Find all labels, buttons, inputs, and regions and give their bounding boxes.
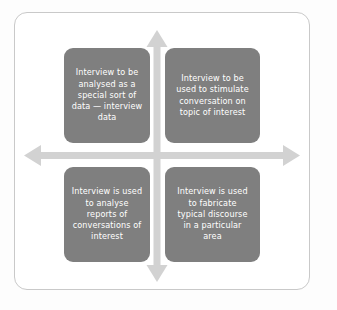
quadrant-diagram: Interview to be analysed as a special so… [0, 0, 337, 310]
quadrant-label-top-left: Interview to be analysed as a special so… [72, 67, 143, 123]
horizontal-axis-arrow-icon [24, 145, 300, 166]
quadrant-box-bottom-right: Interview is used to fabricate typical d… [165, 167, 260, 262]
quadrant-label-bottom-left: Interview is used to analyse reports of … [72, 186, 142, 242]
quadrant-label-top-right: Interview to be used to stimulate conver… [176, 73, 248, 118]
axes-arrows [0, 0, 337, 310]
quadrant-box-top-right: Interview to be used to stimulate conver… [165, 48, 260, 143]
quadrant-box-top-left: Interview to be analysed as a special so… [64, 48, 150, 143]
quadrant-box-bottom-left: Interview is used to analyse reports of … [64, 167, 150, 262]
quadrant-label-bottom-right: Interview is used to fabricate typical d… [177, 186, 247, 242]
